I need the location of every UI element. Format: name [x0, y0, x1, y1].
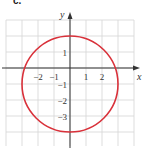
- y-tick-label: −1: [57, 80, 67, 90]
- y-axis-arrow-icon: [68, 12, 73, 19]
- panel-label: c.: [13, 0, 22, 6]
- y-tick-label: −2: [57, 96, 67, 106]
- y-tick-label: −3: [57, 112, 67, 122]
- x-tick-label: −2: [33, 72, 43, 82]
- x-axis-arrow-icon: [133, 66, 140, 71]
- y-axis-label: y: [59, 9, 65, 20]
- x-tick-label: 2: [100, 72, 105, 82]
- x-axis-label: x: [136, 71, 142, 82]
- x-tick-labels: −2−112: [33, 72, 104, 82]
- x-tick-label: 1: [84, 72, 89, 82]
- y-tick-label: 1: [63, 48, 68, 58]
- circle-graph: c. x y −2−112 1−1−2−3: [0, 0, 145, 151]
- y-tick-labels: 1−1−2−3: [57, 48, 67, 122]
